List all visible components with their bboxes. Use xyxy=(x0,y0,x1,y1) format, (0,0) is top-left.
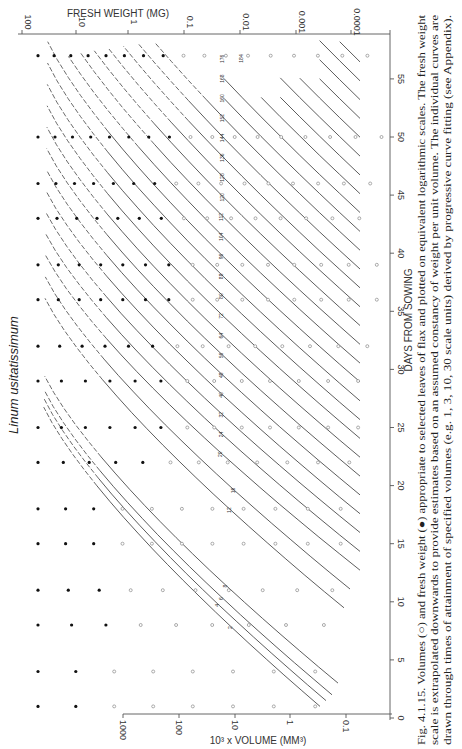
volume-point xyxy=(150,542,153,545)
fresh-weight-point xyxy=(67,589,70,592)
volume-point xyxy=(320,298,323,301)
fresh-weight-point xyxy=(104,623,107,626)
leaf-curve xyxy=(206,99,360,250)
volume-point xyxy=(375,298,378,301)
volume-point xyxy=(211,507,214,510)
fresh-weight-point xyxy=(168,135,171,138)
volume-point xyxy=(150,507,153,510)
volume-point xyxy=(357,380,360,383)
volume-point xyxy=(211,542,214,545)
fresh-weight-tick: 0.01 xyxy=(241,13,251,31)
volume-point xyxy=(241,263,244,266)
day-tick: 40 xyxy=(396,248,406,258)
leaf-curve-extrapolated xyxy=(46,213,107,297)
fresh-weight-point xyxy=(36,217,39,220)
flax-leaf-growth-chart: Linum usitatissimum FRESH WEIGHT (MG) 10… xyxy=(0,0,462,749)
leaf-curve-extrapolated xyxy=(48,42,108,132)
volume-point xyxy=(329,136,332,139)
leaf-curve xyxy=(108,152,360,401)
volume-point xyxy=(186,380,189,383)
leaf-curve xyxy=(107,214,360,457)
volume-point xyxy=(331,217,334,220)
volume-point xyxy=(201,345,204,348)
fresh-weight-point xyxy=(138,217,141,220)
day-tick: 55 xyxy=(396,74,406,84)
leaf-curve xyxy=(340,42,360,62)
volume-point xyxy=(161,589,164,592)
curve-label: 152 xyxy=(219,114,225,123)
volume-point xyxy=(366,54,369,57)
volume-point xyxy=(317,182,320,185)
volume-point xyxy=(380,136,383,139)
volume-point xyxy=(331,589,334,592)
fresh-weight-point xyxy=(53,54,56,57)
volume-point xyxy=(261,589,264,592)
volume-point xyxy=(327,426,330,429)
day-tick: 35 xyxy=(396,306,406,316)
volume-axis: 10³ x VOLUME (MM³) 10001001010.1 xyxy=(118,714,392,746)
leaf-curve xyxy=(108,173,361,420)
volume-point xyxy=(280,136,283,139)
volume-point xyxy=(256,461,259,464)
fresh-weight-point xyxy=(127,135,130,138)
fresh-weight-point xyxy=(36,542,39,545)
fresh-weight-point xyxy=(55,217,58,220)
leaf-curve xyxy=(280,97,360,175)
fresh-weight-point xyxy=(127,345,130,348)
caption-line-2: scale is extrapolated downwards to provi… xyxy=(429,15,440,745)
fresh-weight-point xyxy=(153,182,156,185)
volume-point xyxy=(269,54,272,57)
volume-point xyxy=(191,263,194,266)
leaf-curve xyxy=(155,124,361,326)
volume-point xyxy=(227,345,230,348)
fresh-weight-point xyxy=(167,298,170,301)
volume-point xyxy=(247,54,250,57)
volume-point xyxy=(354,136,357,139)
leaf-curve-extrapolated xyxy=(47,84,107,172)
fresh-weight-point xyxy=(108,426,111,429)
day-tick: 0 xyxy=(396,715,406,720)
fresh-weight-point xyxy=(62,461,65,464)
leaf-curve-extrapolated xyxy=(94,51,154,124)
leaf-curve xyxy=(300,78,360,137)
volume-point xyxy=(279,217,282,220)
volume-point xyxy=(317,461,320,464)
fresh-weight-point xyxy=(95,217,98,220)
fresh-weight-point xyxy=(141,461,144,464)
volume-point xyxy=(306,542,309,545)
volume-point xyxy=(139,624,142,627)
volume-point xyxy=(256,136,259,139)
day-tick: 5 xyxy=(396,657,406,662)
fresh-weight-point xyxy=(123,54,126,57)
day-tick: 25 xyxy=(396,422,406,432)
leaf-curve xyxy=(97,486,320,707)
leaf-curve xyxy=(320,60,360,100)
fresh-weight-point xyxy=(99,263,102,266)
fresh-weight-point xyxy=(36,705,39,708)
leaf-curve xyxy=(104,359,350,589)
volume-point xyxy=(274,507,277,510)
volume-point xyxy=(175,182,178,185)
curve-label: 168 xyxy=(219,74,225,83)
day-tick: 10 xyxy=(396,597,406,607)
volume-tick: 1000 xyxy=(118,720,128,740)
volume-point xyxy=(203,54,206,57)
volume-point xyxy=(305,217,308,220)
day-tick: 45 xyxy=(396,190,406,200)
fresh-weight-point xyxy=(132,182,135,185)
volume-point xyxy=(152,670,155,673)
volume-point xyxy=(240,426,243,429)
volume-point xyxy=(327,380,330,383)
fresh-weight-point xyxy=(160,217,163,220)
curve-label: 96 xyxy=(218,254,224,260)
leaf-growth-curves xyxy=(44,41,360,707)
volume-point xyxy=(297,426,300,429)
leaf-curve-extrapolated xyxy=(47,149,107,235)
volume-point xyxy=(129,589,132,592)
fresh-weight-point xyxy=(36,379,39,382)
leaf-curve xyxy=(100,471,332,695)
curve-label: 12 xyxy=(226,507,232,513)
fresh-weight-point xyxy=(73,182,76,185)
fresh-weight-point xyxy=(36,670,39,673)
day-tick: 50 xyxy=(396,132,406,142)
